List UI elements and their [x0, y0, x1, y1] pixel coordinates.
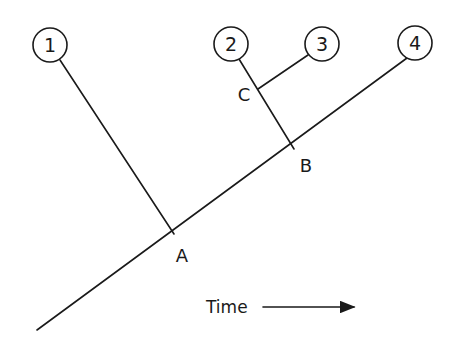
tip-3: 3 — [305, 27, 339, 61]
node-label-b: B — [300, 155, 312, 176]
tip-2: 2 — [214, 27, 248, 61]
tip-1: 1 — [33, 28, 67, 62]
branch-c-to-3 — [258, 55, 308, 89]
tip-label: 4 — [409, 32, 421, 54]
time-axis-label: Time — [205, 297, 248, 317]
trunk-branch — [37, 58, 407, 330]
tip-label: 3 — [316, 33, 328, 55]
tip-label: 1 — [44, 34, 56, 56]
tip-4: 4 — [398, 26, 432, 60]
node-label-c: C — [238, 84, 251, 105]
phylogenetic-tree-diagram: 1 2 3 4 A B C Time — [0, 0, 454, 346]
branch-a-to-1 — [60, 60, 174, 234]
tip-label: 2 — [225, 33, 237, 55]
node-label-a: A — [176, 245, 189, 266]
